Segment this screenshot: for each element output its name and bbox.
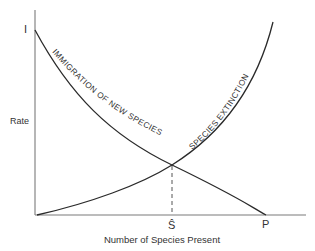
equilibrium-label: Ŝ (168, 219, 175, 231)
x-intercept-label: P (262, 218, 269, 230)
y-axis-label: Rate (10, 116, 29, 126)
island-biogeography-diagram: IMMIGRATION OF NEW SPECIES SPECIES EXTIN… (0, 0, 315, 251)
extinction-curve-label: SPECIES EXTINCTION (187, 72, 250, 151)
y-intercept-label: I (24, 23, 27, 35)
extinction-curve (37, 22, 273, 215)
x-axis-label: Number of Species Present (104, 234, 221, 245)
